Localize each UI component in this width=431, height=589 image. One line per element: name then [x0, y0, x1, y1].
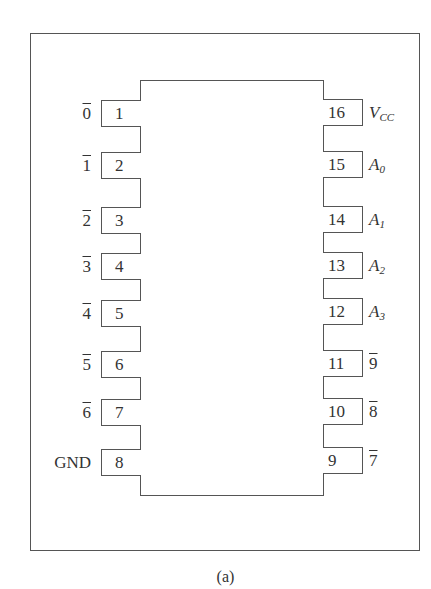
pin-6: 6: [101, 351, 141, 378]
pin-11: 11: [323, 350, 363, 377]
pin-10-label: 8: [369, 398, 378, 425]
pin-15-label: A0: [369, 151, 385, 178]
pin-14: 14: [323, 206, 363, 233]
pin-10: 10: [323, 398, 363, 425]
pin-9: 9: [323, 447, 363, 474]
pin-5-label: 4: [83, 300, 92, 327]
ic-chip-body: [140, 80, 324, 496]
pin-11-label: 9: [369, 350, 378, 377]
pin-15: 15: [323, 151, 363, 178]
pin-8: 8: [101, 449, 141, 476]
pin-6-label: 5: [83, 351, 92, 378]
pin-16-label: VCC: [369, 99, 394, 126]
pin-13-label: A2: [369, 252, 385, 279]
pin-12: 12: [323, 298, 363, 325]
pin-16: 16: [323, 99, 363, 126]
pin-9-label: 7: [369, 447, 378, 474]
pin-3: 3: [101, 207, 141, 234]
pin-7: 7: [101, 399, 141, 426]
pin-4: 4: [101, 253, 141, 280]
pin-1: 1: [101, 100, 141, 127]
pin-2: 2: [101, 152, 141, 179]
pin-13: 13: [323, 252, 363, 279]
pin-2-label: 1: [83, 152, 92, 179]
pin-12-label: A3: [369, 298, 385, 325]
pin-8-label: GND: [54, 449, 91, 476]
figure-caption: (a): [0, 568, 431, 586]
pin-14-label: A1: [369, 206, 385, 233]
pin-1-label: 0: [83, 100, 92, 127]
pin-5: 5: [101, 300, 141, 327]
pin-3-label: 2: [83, 207, 92, 234]
pin-7-label: 6: [83, 399, 92, 426]
pin-4-label: 3: [83, 253, 92, 280]
